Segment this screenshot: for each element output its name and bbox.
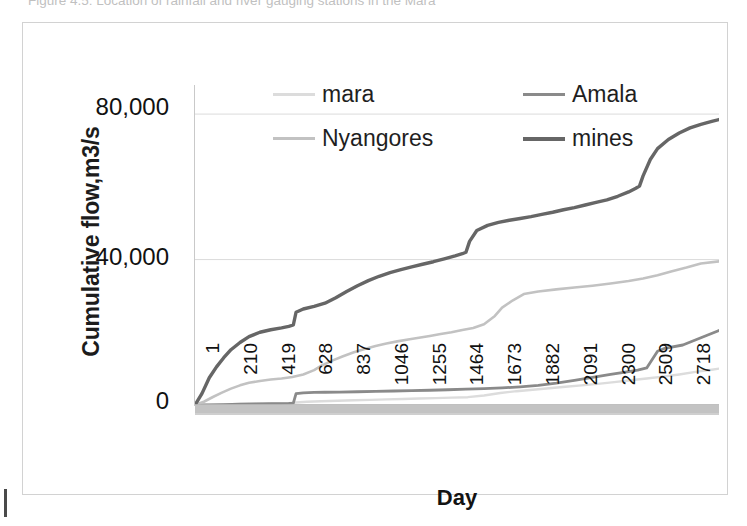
x-tick-label-1046: 1046	[391, 343, 413, 415]
legend-label-amala: Amala	[572, 83, 637, 106]
x-tick-label-210: 210	[240, 343, 262, 415]
legend-swatch-mines	[523, 137, 565, 141]
x-tick-label-2091: 2091	[580, 343, 602, 415]
series-line-amala	[195, 330, 719, 405]
legend-label-mines: mines	[572, 127, 633, 150]
legend-item-amala: Amala	[523, 83, 637, 106]
y-tick-label-40000: 40,000	[59, 245, 169, 269]
series-line-nyangores	[195, 261, 719, 405]
x-tick-label-628: 628	[315, 343, 337, 415]
x-tick-label-2718: 2718	[693, 343, 715, 415]
legend-swatch-mara	[273, 93, 315, 96]
chart-legend: mara Amala Nyangores mines	[273, 83, 703, 161]
x-tick-label-2509: 2509	[655, 343, 677, 415]
x-axis-title: Day	[195, 485, 719, 511]
legend-swatch-amala	[523, 93, 565, 97]
figure-caption: Figure 4.5: Location of rainfall and riv…	[28, 0, 728, 9]
legend-label-nyangores: Nyangores	[322, 127, 433, 150]
series-line-mines	[195, 120, 719, 405]
x-tick-label-837: 837	[353, 343, 375, 415]
legend-label-mara: mara	[322, 83, 374, 106]
legend-item-mines: mines	[523, 127, 633, 150]
figure-frame: Cumulative flow,m3/s 80,000 40,000 0 mar…	[22, 22, 728, 495]
legend-swatch-nyangores	[273, 137, 315, 140]
y-tick-label-80000: 80,000	[59, 95, 169, 119]
x-axis-tick-labels: 1210419628837104612551464167318822091230…	[195, 415, 719, 487]
x-tick-label-2300: 2300	[618, 343, 640, 415]
x-tick-label-1255: 1255	[429, 343, 451, 415]
x-tick-label-1673: 1673	[504, 343, 526, 415]
legend-item-mara: mara	[273, 83, 374, 106]
x-tick-label-1882: 1882	[542, 343, 564, 415]
y-axis-tick-labels: 80,000 40,000 0	[41, 23, 169, 496]
series-line-mara	[195, 369, 719, 405]
legend-item-nyangores: Nyangores	[273, 127, 433, 150]
x-tick-label-1464: 1464	[466, 343, 488, 415]
left-margin-mark	[4, 489, 7, 517]
x-tick-label-419: 419	[278, 343, 300, 415]
x-axis-band	[195, 404, 719, 413]
x-tick-label-1: 1	[202, 343, 224, 415]
y-tick-label-0: 0	[59, 389, 169, 413]
